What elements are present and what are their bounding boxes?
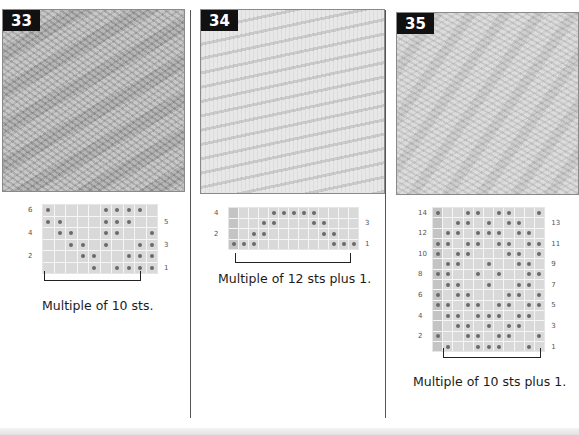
knit-stitch-cell (239, 208, 248, 218)
knit-stitch-cell (484, 249, 493, 258)
purl-stitch-cell (464, 290, 473, 299)
purl-stitch-cell (78, 251, 89, 262)
purl-stitch-cell (474, 208, 483, 217)
knit-stitch-cell (43, 228, 54, 239)
purl-stitch-cell (112, 217, 123, 228)
purl-stitch-cell (43, 217, 54, 228)
knit-stitch-cell (515, 301, 524, 310)
row-number-label: 4 (418, 312, 422, 320)
purl-stitch-cell (329, 240, 338, 250)
purl-stitch-cell (259, 219, 268, 229)
knit-stitch-cell (504, 259, 513, 268)
knit-stitch-cell (124, 240, 135, 251)
knit-stitch-cell (259, 208, 268, 218)
knit-stitch-cell (309, 229, 318, 239)
purl-stitch-cell (484, 229, 493, 238)
knit-stitch-cell (55, 240, 66, 251)
purl-stitch-cell (443, 239, 452, 248)
knit-stitch-cell (299, 219, 308, 229)
knit-stitch-cell (249, 219, 258, 229)
knit-stitch-cell (433, 218, 442, 227)
purl-stitch-cell (484, 259, 493, 268)
purl-stitch-cell (504, 249, 513, 258)
knit-stitch-cell (494, 249, 503, 258)
knit-stitch-cell (229, 229, 238, 239)
purl-stitch-cell (515, 280, 524, 289)
knit-texture-35 (397, 13, 578, 194)
purl-stitch-cell (525, 239, 534, 248)
purl-stitch-cell (535, 270, 544, 279)
knit-stitch-cell (147, 217, 158, 228)
knit-stitch-cell (289, 219, 298, 229)
pattern-caption: Multiple of 10 sts. (42, 298, 153, 313)
purl-stitch-cell (535, 332, 544, 341)
row-number-label: 3 (164, 241, 168, 249)
purl-stitch-cell (464, 301, 473, 310)
purl-stitch-cell (474, 229, 483, 238)
purl-stitch-cell (474, 332, 483, 341)
row-number-label: 1 (365, 240, 369, 248)
purl-stitch-cell (504, 208, 513, 217)
purl-stitch-cell (504, 239, 513, 248)
row-number-label: 1 (164, 264, 168, 272)
knit-stitch-cell (239, 229, 248, 239)
repeat-bracket (235, 253, 351, 263)
purl-stitch-cell (433, 270, 442, 279)
knit-stitch-cell (66, 217, 77, 228)
purl-stitch-cell (433, 332, 442, 341)
knit-stitch-cell (494, 290, 503, 299)
knit-stitch-cell (112, 251, 123, 262)
purl-stitch-cell (443, 301, 452, 310)
row-number-label: 2 (418, 332, 422, 340)
knit-stitch-cell (147, 205, 158, 216)
knit-stitch-cell (504, 311, 513, 320)
knit-stitch-cell (279, 229, 288, 239)
row-number-label: 11 (551, 240, 560, 248)
purl-stitch-cell (433, 208, 442, 217)
knit-stitch-cell (453, 332, 462, 341)
knit-stitch-cell (135, 217, 146, 228)
knit-stitch-cell (89, 217, 100, 228)
purl-stitch-cell (535, 249, 544, 258)
knit-stitch-cell (525, 321, 534, 330)
knit-stitch-cell (269, 229, 278, 239)
knit-stitch-cell (66, 205, 77, 216)
knit-stitch-cell (443, 218, 452, 227)
knit-stitch-cell (474, 290, 483, 299)
purl-stitch-cell (474, 311, 483, 320)
knit-stitch-cell (484, 332, 493, 341)
row-number-label: 4 (214, 209, 218, 217)
purl-stitch-cell (279, 208, 288, 218)
row-number-label: 10 (418, 250, 427, 258)
purl-stitch-cell (504, 321, 513, 330)
knit-stitch-cell (89, 228, 100, 239)
purl-stitch-cell (535, 239, 544, 248)
knit-stitch-cell (349, 208, 358, 218)
knit-stitch-cell (319, 240, 328, 250)
purl-stitch-cell (494, 270, 503, 279)
knit-stitch-cell (453, 301, 462, 310)
purl-stitch-cell (464, 208, 473, 217)
purl-stitch-cell (269, 208, 278, 218)
knit-stitch-cell (464, 259, 473, 268)
purl-stitch-cell (433, 249, 442, 258)
pattern-number-badge: 33 (3, 10, 40, 31)
purl-stitch-cell (112, 205, 123, 216)
purl-stitch-cell (474, 239, 483, 248)
knit-stitch-cell (515, 332, 524, 341)
purl-stitch-cell (124, 217, 135, 228)
purl-stitch-cell (453, 229, 462, 238)
knit-stitch-cell (484, 290, 493, 299)
row-number-label: 2 (214, 230, 218, 238)
purl-stitch-cell (464, 321, 473, 330)
purl-stitch-cell (494, 208, 503, 217)
row-number-label: 5 (551, 301, 555, 309)
knit-stitch-cell (433, 280, 442, 289)
row-number-label: 9 (551, 260, 555, 268)
knit-stitch-cell (43, 240, 54, 251)
knit-stitch-cell (535, 229, 544, 238)
knit-stitch-cell (525, 249, 534, 258)
purl-stitch-cell (535, 290, 544, 299)
row-number-label: 7 (551, 281, 555, 289)
knit-stitch-cell (525, 218, 534, 227)
